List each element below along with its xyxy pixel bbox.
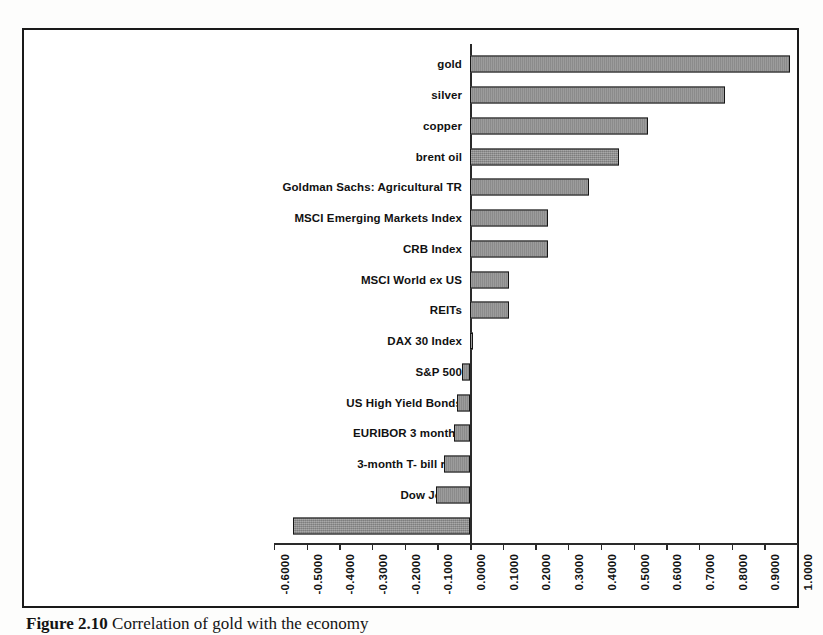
bar-category-label: REITs <box>430 304 470 316</box>
bar <box>436 486 470 503</box>
x-axis-tick-label: -0.3000 <box>377 554 389 594</box>
x-axis-tick <box>797 543 798 550</box>
x-axis-tick-label: 1.0000 <box>802 554 814 590</box>
x-axis-tick <box>666 543 667 550</box>
x-axis-tick <box>274 543 275 550</box>
x-axis-tick <box>601 543 602 550</box>
x-axis-tick-label: 0.6000 <box>671 554 683 590</box>
x-axis-tick-label: 0.8000 <box>737 554 749 590</box>
bar <box>470 271 509 288</box>
x-axis-tick <box>339 543 340 550</box>
x-axis-tick-label: -0.1000 <box>442 554 454 594</box>
x-axis-tick <box>634 543 635 550</box>
bar-category-label: MSCI Emerging Markets Index <box>294 212 470 224</box>
bar-row: EURIBOR 3 months <box>24 418 797 449</box>
x-axis-tick-label: -0.6000 <box>279 554 291 594</box>
x-axis-tick <box>437 543 438 550</box>
x-axis-tick-label: -0.5000 <box>312 554 324 594</box>
bar-category-label: DAX 30 Index <box>387 335 470 347</box>
x-axis-tick-label: 0.9000 <box>769 554 781 590</box>
bar <box>470 333 473 350</box>
bar-row: MSCI Emerging Markets Index <box>24 203 797 234</box>
bar-category-label: copper <box>423 120 470 132</box>
bar <box>470 87 725 104</box>
x-axis-tick-label: 0.7000 <box>704 554 716 590</box>
bar-category-label: MSCI World ex US <box>361 274 470 286</box>
bar <box>470 117 648 134</box>
x-axis-tick <box>764 543 765 550</box>
bar <box>470 302 509 319</box>
x-axis-tick-label: -0.2000 <box>410 554 422 594</box>
x-axis-tick <box>470 539 472 550</box>
bar <box>470 210 548 227</box>
figure-caption: Figure 2.10 Correlation of gold with the… <box>26 614 816 634</box>
bar-chart-plot: goldsilvercopperbrent oilGoldman Sachs: … <box>24 30 797 606</box>
bar-category-label: US High Yield Bonds <box>346 397 470 409</box>
x-axis-tick-label: 0.4000 <box>606 554 618 590</box>
x-axis-tick-label: 0.1000 <box>508 554 520 590</box>
bar <box>470 179 589 196</box>
bar <box>457 394 470 411</box>
bar <box>470 240 548 257</box>
bar-row: DAX 30 Index <box>24 326 797 357</box>
bar-category-label: brent oil <box>416 151 470 163</box>
bar-rows: goldsilvercopperbrent oilGoldman Sachs: … <box>24 49 797 541</box>
figure-page: goldsilvercopperbrent oilGoldman Sachs: … <box>0 0 823 635</box>
figure-caption-label: Figure 2.10 <box>26 614 108 633</box>
x-axis-tick-label: -0.4000 <box>344 554 356 594</box>
bar-row: copper <box>24 111 797 142</box>
bar-row: Dow Jones <box>24 480 797 511</box>
x-axis-tick <box>568 543 569 550</box>
x-axis <box>24 543 797 553</box>
x-axis-tick <box>503 543 504 550</box>
bar <box>470 148 619 165</box>
bar-category-label: gold <box>437 58 470 70</box>
x-axis-tick <box>535 543 536 550</box>
x-axis-tick-label: 0.0000 <box>475 554 487 590</box>
bar <box>293 517 470 534</box>
bar-category-label: silver <box>431 89 470 101</box>
bar <box>444 456 470 473</box>
bar-row: US Dollar Index (DXY) <box>24 510 797 541</box>
figure-caption-text: Correlation of gold with the economy <box>112 614 368 633</box>
bar-row: US High Yield Bonds <box>24 387 797 418</box>
bar <box>454 425 470 442</box>
x-axis-tick-label: 0.3000 <box>573 554 585 590</box>
bar-row: MSCI World ex US <box>24 264 797 295</box>
bar-category-label: EURIBOR 3 months <box>353 427 470 439</box>
x-axis-tick-labels: -0.6000-0.5000-0.4000-0.3000-0.2000-0.10… <box>24 554 797 616</box>
bar <box>470 56 790 73</box>
bar-row: Goldman Sachs: Agricultural TR <box>24 172 797 203</box>
x-axis-tick <box>307 543 308 550</box>
bar-category-label: Goldman Sachs: Agricultural TR <box>282 181 470 193</box>
bar-row: silver <box>24 80 797 111</box>
bar-row: brent oil <box>24 141 797 172</box>
bar-category-label: CRB Index <box>403 243 470 255</box>
x-axis-tick-label: 0.5000 <box>639 554 651 590</box>
bar-row: gold <box>24 49 797 80</box>
bar-row: 3-month T- bill rate <box>24 449 797 480</box>
bar-row: S&P 500 <box>24 357 797 388</box>
bar-row: CRB Index <box>24 234 797 265</box>
x-axis-tick <box>732 543 733 550</box>
x-axis-tick <box>372 543 373 550</box>
x-axis-tick-label: 0.2000 <box>540 554 552 590</box>
chart-frame: goldsilvercopperbrent oilGoldman Sachs: … <box>22 28 799 608</box>
x-axis-tick <box>405 543 406 550</box>
bar <box>462 363 470 380</box>
bar-row: REITs <box>24 295 797 326</box>
x-axis-tick <box>699 543 700 550</box>
